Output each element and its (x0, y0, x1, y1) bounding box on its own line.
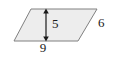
base-label: 9 (40, 40, 47, 55)
height-label: 5 (52, 16, 59, 31)
geometry-figure-container: 5 9 6 (0, 0, 117, 67)
parallelogram-diagram: 5 9 6 (0, 0, 117, 67)
side-label: 6 (98, 15, 105, 30)
